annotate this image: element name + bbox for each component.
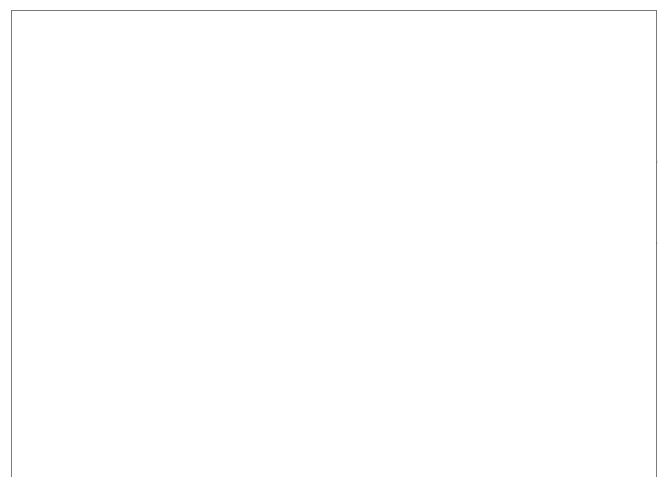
photo-frame-border	[11, 10, 657, 477]
screenshot-root: Fan-trained pruned bush on three-wire tr…	[0, 0, 669, 477]
